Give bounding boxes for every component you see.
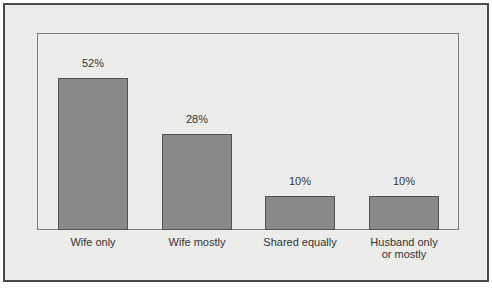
bar-wife-mostly xyxy=(162,134,232,230)
bar-value-label-shared-equally: 10% xyxy=(289,175,311,188)
figure-frame: 52%Wife only28%Wife mostly10%Shared equa… xyxy=(3,3,489,282)
bar-value-label-wife-mostly: 28% xyxy=(186,113,208,126)
bar-value-label-husband-only-or-mostly: 10% xyxy=(393,175,415,188)
category-label-husband-only-or-mostly: Husband only or mostly xyxy=(370,236,437,260)
bar-wife-only xyxy=(58,78,128,230)
bar-husband-only-or-mostly xyxy=(369,196,439,230)
category-label-wife-mostly: Wife mostly xyxy=(169,236,226,248)
bar-shared-equally xyxy=(265,196,335,230)
category-label-shared-equally: Shared equally xyxy=(263,236,336,248)
figure-canvas: { "figure": { "colors": { "canvas_backgr… xyxy=(0,0,492,291)
category-label-wife-only: Wife only xyxy=(70,236,115,248)
bar-value-label-wife-only: 52% xyxy=(82,57,104,70)
